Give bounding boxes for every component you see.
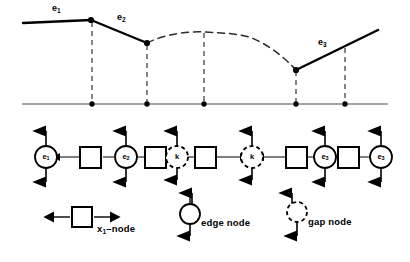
- edge-node-e1-label: e1: [42, 153, 49, 162]
- baseline-point-3: [201, 101, 206, 106]
- baseline-point-2: [144, 101, 149, 106]
- plot-label-e3: e3: [318, 38, 327, 48]
- edge-node-e3-a-label: e3: [321, 153, 328, 162]
- gap-node-k1-label: k: [175, 153, 179, 161]
- solid-segment-e3: [296, 30, 378, 70]
- plot-label-e2: e2: [117, 13, 126, 23]
- edge-node-e2-label: e2: [122, 153, 129, 162]
- legend-edge-node-glyph: [180, 197, 200, 236]
- legend-circle-icon: [180, 204, 200, 224]
- upper-profile-plot: [22, 17, 388, 107]
- baseline-point-1: [89, 101, 94, 106]
- profile-vertex-1: [88, 17, 94, 23]
- solid-segment-e1-e2: [23, 20, 147, 43]
- gap-down-arrows: [177, 168, 292, 205]
- legend-gap-node-label: gap node: [308, 217, 352, 227]
- x1-node-4[interactable]: [286, 147, 307, 168]
- legend-edge-node-label: edge node: [201, 218, 250, 228]
- down-arrows: [46, 168, 381, 182]
- x1-node-3[interactable]: [195, 147, 216, 168]
- x1-node-1[interactable]: [80, 147, 101, 168]
- profile-vertex-3: [293, 67, 299, 73]
- x1-node-5[interactable]: [338, 147, 359, 168]
- baseline-point-4: [293, 101, 298, 106]
- plot-label-e1: e1: [52, 4, 61, 14]
- gap-node-k2-label: k: [250, 153, 254, 161]
- profile-vertex-2: [144, 40, 150, 46]
- x1-node-2[interactable]: [145, 147, 166, 168]
- node-chain: [35, 131, 392, 205]
- edge-node-e3-b-label: e3: [377, 153, 384, 162]
- legend-dashed-circle-icon: [287, 202, 307, 222]
- legend-x1-node-label: x1–node: [97, 224, 135, 235]
- drop-lines: [92, 22, 345, 103]
- up-arrows: [46, 131, 381, 146]
- dashed-gap-curve: [147, 32, 296, 70]
- legend-square-icon: [72, 207, 92, 227]
- baseline-point-5: [342, 101, 347, 106]
- legend-gap-node-glyph: [287, 202, 307, 236]
- legend: [54, 197, 307, 236]
